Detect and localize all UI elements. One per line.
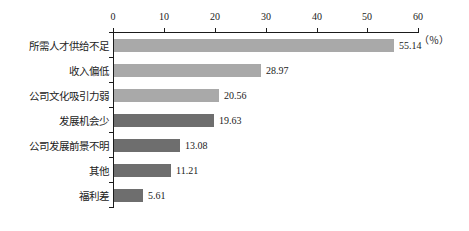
x-axis-line <box>113 32 419 33</box>
y-axis-tick <box>109 82 113 83</box>
x-axis-tick <box>317 28 318 32</box>
x-axis-tick <box>418 28 419 32</box>
category-label: 公司文化吸引力弱 <box>29 90 109 102</box>
x-axis-tick-label: 40 <box>302 11 332 22</box>
bar-value-label: 13.08 <box>185 140 208 151</box>
category-label: 其他 <box>89 165 109 177</box>
y-axis-tick <box>109 182 113 183</box>
x-axis-tick-label: 0 <box>98 11 128 22</box>
bar <box>114 89 219 102</box>
y-axis-tick <box>109 57 113 58</box>
unit-label: （％） <box>419 35 449 46</box>
y-axis-tick <box>109 107 113 108</box>
bar-value-label: 55.14 <box>399 40 422 51</box>
bar <box>114 139 180 152</box>
x-axis-tick-label: 50 <box>352 11 382 22</box>
bar-chart: 所需人才供给不足 收入偏低 公司文化吸引力弱 发展机会少 公司发展前景不明 其他… <box>0 0 469 231</box>
bar-value-label: 28.97 <box>266 65 289 76</box>
bar <box>114 164 171 177</box>
category-label: 公司发展前景不明 <box>29 140 109 152</box>
bar-value-label: 20.56 <box>224 90 247 101</box>
x-axis-tick-label: 60 <box>403 11 433 22</box>
x-axis-tick <box>266 28 267 32</box>
category-label: 收入偏低 <box>69 65 109 77</box>
x-axis-tick-label: 20 <box>200 11 230 22</box>
category-label: 所需人才供给不足 <box>29 40 109 52</box>
bar <box>114 189 143 202</box>
y-axis-tick <box>109 157 113 158</box>
category-label: 发展机会少 <box>59 115 109 127</box>
x-axis-tick <box>113 28 114 32</box>
bar-value-label: 19.63 <box>219 115 242 126</box>
bar <box>114 64 261 77</box>
bar-value-label: 11.21 <box>176 165 198 176</box>
x-axis-tick <box>367 28 368 32</box>
y-axis-tick <box>109 207 113 208</box>
plot-area: 0 10 20 30 40 50 60 （％） 55.14 28.97 20.5… <box>113 32 418 204</box>
category-axis-labels: 所需人才供给不足 收入偏低 公司文化吸引力弱 发展机会少 公司发展前景不明 其他… <box>0 32 109 208</box>
category-label: 福利差 <box>79 190 109 202</box>
x-axis-tick <box>164 28 165 32</box>
bar-value-label: 5.61 <box>148 190 166 201</box>
x-axis-tick <box>215 28 216 32</box>
bar <box>114 39 394 52</box>
y-axis-tick <box>109 32 113 33</box>
y-axis-tick <box>109 132 113 133</box>
bar <box>114 114 214 127</box>
x-axis-tick-label: 30 <box>251 11 281 22</box>
x-axis-tick-label: 10 <box>149 11 179 22</box>
